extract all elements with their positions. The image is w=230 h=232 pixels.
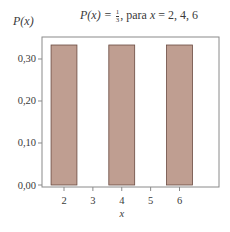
- x-tick-label: 3: [90, 195, 95, 206]
- x-axis-label: x: [118, 208, 124, 219]
- bar-x-4: [109, 45, 135, 185]
- x-tick-label: 2: [61, 195, 66, 206]
- bar-x-2: [51, 45, 77, 185]
- y-tick-label: 0,10: [18, 137, 36, 148]
- bar-x-6: [167, 45, 193, 185]
- bar-chart: 0,000,100,200,3023456x: [0, 0, 230, 232]
- x-tick-label: 6: [177, 195, 182, 206]
- y-tick-label: 0,30: [18, 53, 36, 64]
- x-tick-label: 5: [148, 195, 153, 206]
- x-tick-label: 4: [119, 195, 125, 206]
- y-tick-label: 0,20: [18, 95, 36, 106]
- y-tick-label: 0,00: [18, 180, 36, 191]
